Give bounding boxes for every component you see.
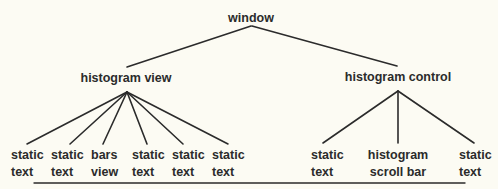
edge-hv-leaf-4 (127, 92, 147, 144)
node-histogram-control: histogram control (345, 70, 451, 85)
node-histogram-view: histogram view (81, 71, 172, 86)
node-hv-static-text-3: static text (132, 147, 165, 181)
edge-window-histogram-control (252, 26, 397, 66)
view-hierarchy-diagram: window histogram view histogram control … (0, 0, 498, 189)
node-hv-static-text-5: static text (212, 147, 245, 181)
node-hc-static-text-2: static text (459, 147, 492, 181)
node-window: window (228, 11, 274, 26)
node-hv-static-text-1: static text (11, 147, 44, 181)
edge-hv-leaf-3 (103, 92, 127, 144)
edge-hv-leaf-1 (27, 92, 127, 144)
edge-hc-leaf-1 (323, 91, 398, 143)
edge-hv-leaf-5 (127, 92, 183, 144)
node-hv-bars-view: bars view (91, 147, 118, 181)
edge-window-histogram-view (127, 26, 251, 67)
node-hv-static-text-2: static text (51, 147, 84, 181)
edge-hv-leaf-6 (127, 92, 228, 144)
node-hv-static-text-4: static text (172, 147, 205, 181)
edge-hc-leaf-3 (398, 91, 474, 143)
node-hc-histogram-scroll-bar: histogram scroll bar (368, 147, 428, 181)
node-hc-static-text-1: static text (311, 147, 344, 181)
